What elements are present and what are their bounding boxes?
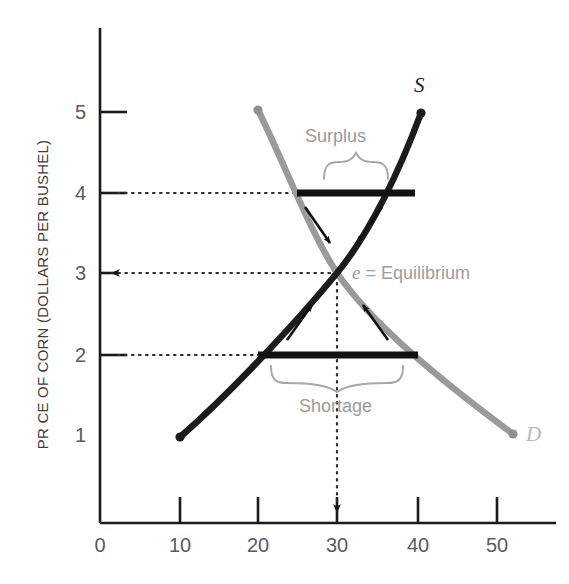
chart-canvas bbox=[0, 0, 569, 584]
surplus-label: Surplus bbox=[305, 126, 366, 147]
y-tick-label-1: 1 bbox=[60, 424, 86, 447]
axis-lines bbox=[100, 28, 556, 523]
y-tick-label-5: 5 bbox=[60, 101, 86, 124]
x-axis-ticks bbox=[180, 497, 497, 523]
y-tick-label-4: 4 bbox=[60, 182, 86, 205]
x-tick-label-50: 50 bbox=[477, 534, 517, 557]
x-tick-label-20: 20 bbox=[238, 534, 278, 557]
equilibrium-word: Equilibrium bbox=[381, 263, 470, 283]
supply-demand-figure: PR CE OF CORN (DOLLARS PER BUSHEL) bbox=[0, 0, 569, 584]
surplus-arrow-right bbox=[357, 207, 382, 243]
x-tick-label-10: 10 bbox=[160, 534, 200, 557]
shortage-label: Shortage bbox=[299, 396, 372, 417]
surplus-brace bbox=[324, 153, 388, 179]
y-tick-label-2: 2 bbox=[60, 344, 86, 367]
x-tick-label-30: 30 bbox=[317, 534, 357, 557]
shortage-arrow-right bbox=[363, 305, 388, 340]
equilibrium-equals-sign: = bbox=[365, 263, 376, 283]
y-tick-label-3: 3 bbox=[60, 262, 86, 285]
supply-curve-label: S bbox=[414, 73, 425, 98]
y-axis-ticks bbox=[100, 112, 127, 355]
x-tick-label-0: 0 bbox=[80, 534, 120, 557]
x-tick-label-40: 40 bbox=[398, 534, 438, 557]
demand-curve-label: D bbox=[526, 422, 541, 447]
equilibrium-label: e = Equilibrium bbox=[352, 262, 470, 284]
equilibrium-e-symbol: e bbox=[352, 262, 360, 283]
